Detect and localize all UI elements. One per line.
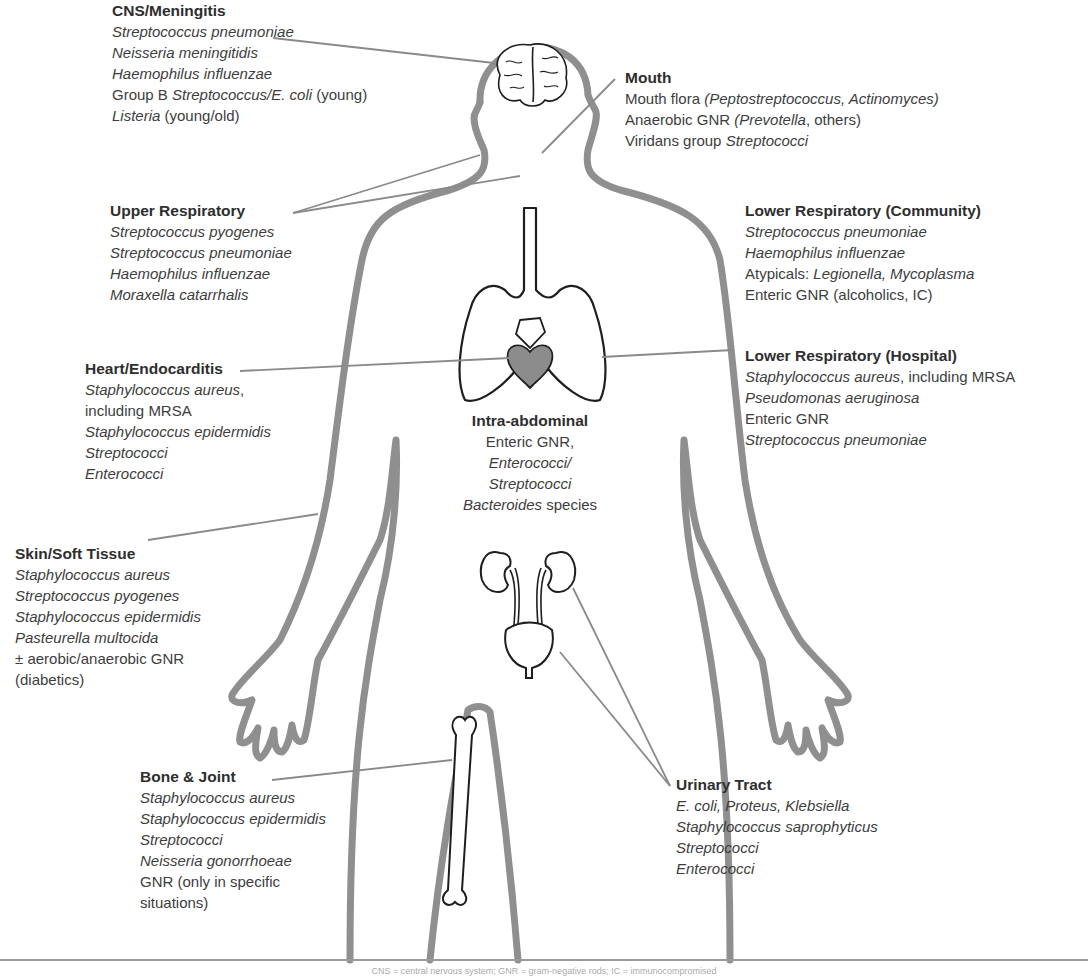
organism-line: Pseudomonas aeruginosa — [745, 387, 1015, 408]
organism-line: Enterococci/ — [440, 452, 620, 473]
site-heart: Heart/Endocarditis Staphylococcus aureus… — [85, 358, 271, 484]
site-lower-respiratory-hospital: Lower Respiratory (Hospital) Staphylococ… — [745, 345, 1015, 450]
caption: CNS = central nervous system; GNR = gram… — [0, 966, 1088, 976]
organism-line: Neisseria meningitidis — [112, 42, 367, 63]
organism-line: Anaerobic GNR (Prevotella, others) — [625, 109, 939, 130]
organism-line: Staphylococcus saprophyticus — [676, 816, 878, 837]
site-title: Intra-abdominal — [440, 410, 620, 431]
organism-line: Streptococcus pyogenes — [15, 585, 201, 606]
organism-line: Haemophilus influenzae — [745, 242, 981, 263]
organism-line: Streptococcus pneumoniae — [745, 221, 981, 242]
site-title: Upper Respiratory — [110, 200, 292, 221]
organism-line: Group B Streptococcus/E. coli (young) — [112, 84, 367, 105]
site-title: Bone & Joint — [140, 766, 326, 787]
organism-line: Enterococci — [676, 858, 878, 879]
organism-line: Enteric GNR, — [440, 431, 620, 452]
organism-line: Moraxella catarrhalis — [110, 284, 292, 305]
organism-line: Pasteurella multocida — [15, 627, 201, 648]
organism-line: Listeria (young/old) — [112, 105, 367, 126]
organism-line: Neisseria gonorrhoeae — [140, 850, 326, 871]
site-title: Mouth — [625, 67, 939, 88]
organism-line: Streptococci — [676, 837, 878, 858]
organism-line: Streptococcus pneumoniae — [110, 242, 292, 263]
site-urinary: Urinary Tract E. coli, Proteus, Klebsiel… — [676, 774, 878, 879]
organism-line: Streptococci — [140, 829, 326, 850]
organism-line: Streptococci — [85, 442, 271, 463]
site-cns: CNS/Meningitis Streptococcus pneumoniae … — [112, 0, 367, 126]
organism-line: Enteric GNR — [745, 408, 1015, 429]
site-title: CNS/Meningitis — [112, 0, 367, 21]
site-skin: Skin/Soft Tissue Staphylococcus aureus S… — [15, 543, 201, 690]
site-title: Lower Respiratory (Hospital) — [745, 345, 1015, 366]
site-mouth: Mouth Mouth flora (Peptostreptococcus, A… — [625, 67, 939, 151]
organism-line: Streptococcus pyogenes — [110, 221, 292, 242]
organism-line: Mouth flora (Peptostreptococcus, Actinom… — [625, 88, 939, 109]
organism-line: E. coli, Proteus, Klebsiella — [676, 795, 878, 816]
organism-line: (diabetics) — [15, 669, 201, 690]
organism-line: Viridans group Streptococci — [625, 130, 939, 151]
kidneys-icon — [481, 552, 575, 625]
site-upper-respiratory: Upper Respiratory Streptococcus pyogenes… — [110, 200, 292, 305]
organism-line: Enteric GNR (alcoholics, IC) — [745, 284, 981, 305]
organism-line: Bacteroides species — [440, 494, 620, 515]
site-title: Skin/Soft Tissue — [15, 543, 201, 564]
site-bone: Bone & Joint Staphylococcus aureus Staph… — [140, 766, 326, 913]
site-title: Heart/Endocarditis — [85, 358, 271, 379]
organism-line: Staphylococcus epidermidis — [85, 421, 271, 442]
organism-line: situations) — [140, 892, 326, 913]
organism-line: Haemophilus influenzae — [110, 263, 292, 284]
organism-line: Staphylococcus aureus — [15, 564, 201, 585]
site-intra-abdominal: Intra-abdominal Enteric GNR, Enterococci… — [440, 410, 620, 515]
organism-line: Streptococcus pneumoniae — [112, 21, 367, 42]
site-lower-respiratory-community: Lower Respiratory (Community) Streptococ… — [745, 200, 981, 305]
organism-line: ± aerobic/anaerobic GNR — [15, 648, 201, 669]
organism-line: Streptococci — [440, 473, 620, 494]
site-title: Lower Respiratory (Community) — [745, 200, 981, 221]
organism-line: Enterococci — [85, 463, 271, 484]
organism-line: including MRSA — [85, 400, 271, 421]
heart-icon — [508, 345, 553, 388]
bladder-icon — [505, 623, 553, 679]
organism-line: Staphylococcus aureus, — [85, 379, 271, 400]
organism-line: Staphylococcus aureus — [140, 787, 326, 808]
site-title: Urinary Tract — [676, 774, 878, 795]
organism-line: GNR (only in specific — [140, 871, 326, 892]
organism-line: Streptococcus pneumoniae — [745, 429, 1015, 450]
organism-line: Staphylococcus epidermidis — [15, 606, 201, 627]
organism-line: Staphylococcus aureus, including MRSA — [745, 366, 1015, 387]
organism-line: Staphylococcus epidermidis — [140, 808, 326, 829]
brain-icon — [497, 44, 566, 106]
organism-line: Haemophilus influenzae — [112, 63, 367, 84]
organism-line: Atypicals: Legionella, Mycoplasma — [745, 263, 981, 284]
